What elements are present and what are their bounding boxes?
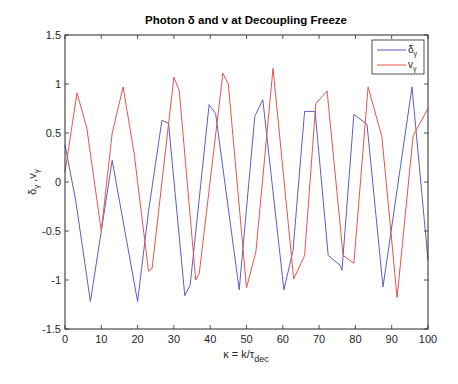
x-tick-label: 60 — [277, 333, 289, 345]
y-axis-label: δγ ,vγ — [26, 169, 41, 195]
x-axis-label: κ = k/τdec — [223, 348, 269, 364]
chart-title: Photon δ and v at Decoupling Freeze — [145, 14, 347, 26]
y-tick-label: -1.5 — [42, 323, 61, 335]
svg-text:δγ ,vγ: δγ ,vγ — [26, 169, 41, 195]
x-tick-label: 100 — [419, 333, 437, 345]
x-tick-label: 80 — [349, 333, 361, 345]
x-tick-label: 20 — [131, 333, 143, 345]
x-tick-label: 30 — [168, 333, 180, 345]
x-tick-label: 0 — [62, 333, 68, 345]
chart-figure: Photon δ and v at Decoupling Freeze 0102… — [0, 0, 458, 384]
x-tick-label: 10 — [95, 333, 107, 345]
x-tick-label: 50 — [240, 333, 252, 345]
y-tick-label: 0 — [55, 176, 61, 188]
x-tick-label: 90 — [386, 333, 398, 345]
y-tick-label: -1 — [51, 274, 61, 286]
y-tick-label: 0.5 — [46, 127, 61, 139]
y-tick-label: 1 — [55, 78, 61, 90]
x-tick-label: 40 — [204, 333, 216, 345]
x-tick-label: 70 — [313, 333, 325, 345]
y-tick-label: -0.5 — [42, 225, 61, 237]
legend: δγ vγ — [372, 40, 424, 74]
y-tick-label: 1.5 — [46, 29, 61, 41]
